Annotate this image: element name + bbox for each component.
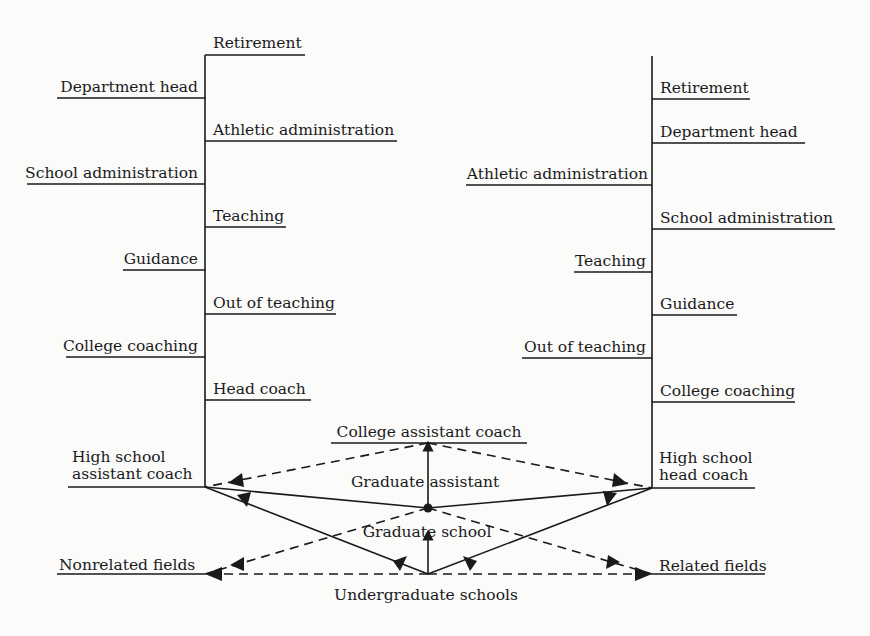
graduate-school: Graduate school [363, 523, 492, 541]
left-retirement: Retirement [213, 34, 302, 52]
left-athletic-administration: Athletic administration [212, 121, 394, 139]
college-assistant-coach: College assistant coach [337, 423, 522, 441]
left-head-coach: Head coach [213, 380, 306, 398]
graduate-assistant: Graduate assistant [351, 473, 500, 491]
right-school-administration: School administration [660, 209, 833, 227]
right-guidance: Guidance [660, 295, 734, 313]
career-flowchart: Retirement Department head Athletic admi… [0, 0, 870, 636]
right-college-coaching: College coaching [660, 382, 795, 400]
high-school-assistant-coach-line2: assistant coach [72, 465, 193, 483]
left-teaching: Teaching [213, 207, 284, 225]
left-school-administration: School administration [25, 164, 198, 182]
high-school-head-coach-line2: head coach [659, 466, 748, 484]
high-school-head-coach-line1: High school [659, 449, 753, 467]
right-department-head: Department head [660, 123, 798, 141]
left-department-head: Department head [60, 78, 198, 96]
high-school-assistant-coach-line1: High school [72, 448, 166, 466]
undergraduate-schools: Undergraduate schools [334, 586, 518, 604]
related-fields: Related fields [659, 557, 767, 575]
right-teaching: Teaching [575, 252, 646, 270]
left-out-of-teaching: Out of teaching [213, 294, 335, 312]
right-athletic-administration: Athletic administration [466, 165, 648, 183]
right-out-of-teaching: Out of teaching [524, 338, 646, 356]
right-retirement: Retirement [660, 79, 749, 97]
left-college-coaching: College coaching [63, 337, 198, 355]
nonrelated-fields: Nonrelated fields [59, 556, 195, 574]
left-guidance: Guidance [124, 250, 198, 268]
